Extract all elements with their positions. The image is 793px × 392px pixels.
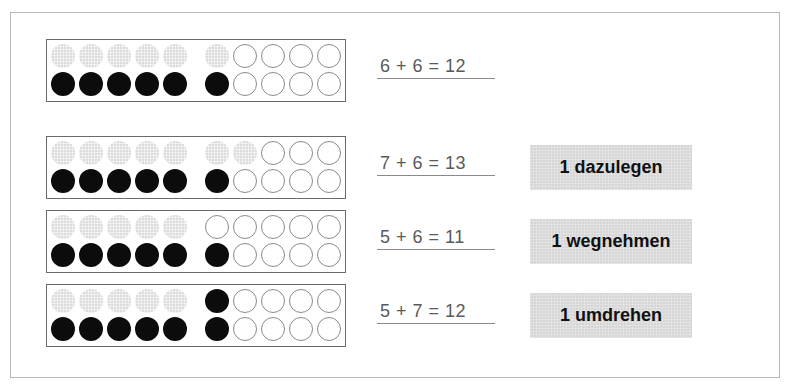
black-counter-icon: [51, 317, 75, 341]
empty-counter-icon: [317, 215, 341, 239]
black-counter-icon: [79, 169, 103, 193]
top-row: [47, 289, 345, 315]
empty-counter-icon: [261, 72, 285, 96]
black-counter-icon: [163, 169, 187, 193]
bottom-row: [47, 317, 345, 343]
empty-counter-icon: [289, 317, 313, 341]
empty-counter-icon: [261, 243, 285, 267]
grey-counter-icon: [79, 44, 103, 68]
black-counter-icon: [205, 169, 229, 193]
grey-counter-icon: [163, 141, 187, 165]
bottom-row: [47, 169, 345, 195]
top-row: [47, 44, 345, 70]
grey-counter-icon: [135, 44, 159, 68]
empty-counter-icon: [317, 243, 341, 267]
twenty-frame-3: [46, 210, 346, 273]
equation-text: 5 + 6 = 11: [380, 227, 465, 248]
empty-counter-icon: [233, 72, 257, 96]
empty-counter-icon: [289, 243, 313, 267]
twenty-frame-1: [46, 39, 346, 102]
empty-counter-icon: [317, 44, 341, 68]
black-counter-icon: [205, 317, 229, 341]
empty-counter-icon: [289, 141, 313, 165]
empty-counter-icon: [233, 44, 257, 68]
empty-counter-icon: [233, 215, 257, 239]
empty-counter-icon: [261, 141, 285, 165]
black-counter-icon: [51, 243, 75, 267]
grey-counter-icon: [205, 44, 229, 68]
equation-2: 7 + 6 = 13: [377, 155, 495, 176]
empty-counter-icon: [261, 44, 285, 68]
black-counter-icon: [135, 72, 159, 96]
equation-1: 6 + 6 = 12: [377, 58, 495, 79]
black-counter-icon: [163, 243, 187, 267]
empty-counter-icon: [233, 317, 257, 341]
bottom-row: [47, 72, 345, 98]
empty-counter-icon: [205, 215, 229, 239]
black-counter-icon: [79, 243, 103, 267]
black-counter-icon: [107, 243, 131, 267]
grey-counter-icon: [163, 215, 187, 239]
empty-counter-icon: [289, 215, 313, 239]
empty-counter-icon: [289, 44, 313, 68]
grey-counter-icon: [135, 141, 159, 165]
empty-counter-icon: [233, 289, 257, 313]
equation-text: 6 + 6 = 12: [380, 56, 466, 77]
black-counter-icon: [79, 317, 103, 341]
empty-counter-icon: [261, 215, 285, 239]
empty-counter-icon: [317, 289, 341, 313]
grey-counter-icon: [51, 289, 75, 313]
grey-counter-icon: [51, 44, 75, 68]
black-counter-icon: [205, 289, 229, 313]
label-flip-one: 1 umdrehen: [530, 293, 692, 338]
equation-4: 5 + 7 = 12: [377, 303, 495, 324]
empty-counter-icon: [233, 243, 257, 267]
empty-counter-icon: [261, 169, 285, 193]
grey-counter-icon: [107, 141, 131, 165]
empty-counter-icon: [233, 169, 257, 193]
black-counter-icon: [79, 72, 103, 96]
label-remove-one: 1 wegnehmen: [530, 219, 692, 264]
black-counter-icon: [205, 72, 229, 96]
empty-counter-icon: [317, 141, 341, 165]
empty-counter-icon: [317, 317, 341, 341]
equation-3: 5 + 6 = 11: [377, 229, 495, 250]
black-counter-icon: [135, 169, 159, 193]
black-counter-icon: [107, 317, 131, 341]
grey-counter-icon: [79, 289, 103, 313]
black-counter-icon: [51, 72, 75, 96]
bottom-row: [47, 243, 345, 269]
black-counter-icon: [51, 169, 75, 193]
grey-counter-icon: [163, 44, 187, 68]
black-counter-icon: [205, 243, 229, 267]
twenty-frame-4: [46, 284, 346, 347]
empty-counter-icon: [289, 289, 313, 313]
empty-counter-icon: [317, 72, 341, 96]
empty-counter-icon: [289, 169, 313, 193]
grey-counter-icon: [79, 141, 103, 165]
top-row: [47, 215, 345, 241]
black-counter-icon: [107, 72, 131, 96]
equation-text: 7 + 6 = 13: [380, 153, 466, 174]
label-add-one: 1 dazulegen: [530, 145, 692, 190]
grey-counter-icon: [135, 215, 159, 239]
grey-counter-icon: [233, 141, 257, 165]
grey-counter-icon: [163, 289, 187, 313]
grey-counter-icon: [79, 215, 103, 239]
black-counter-icon: [107, 169, 131, 193]
empty-counter-icon: [317, 169, 341, 193]
grey-counter-icon: [107, 289, 131, 313]
black-counter-icon: [135, 243, 159, 267]
grey-counter-icon: [51, 141, 75, 165]
grey-counter-icon: [135, 289, 159, 313]
top-row: [47, 141, 345, 167]
empty-counter-icon: [261, 317, 285, 341]
equation-text: 5 + 7 = 12: [380, 301, 466, 322]
black-counter-icon: [135, 317, 159, 341]
grey-counter-icon: [107, 215, 131, 239]
black-counter-icon: [163, 317, 187, 341]
black-counter-icon: [163, 72, 187, 96]
empty-counter-icon: [261, 289, 285, 313]
empty-counter-icon: [289, 72, 313, 96]
grey-counter-icon: [205, 141, 229, 165]
